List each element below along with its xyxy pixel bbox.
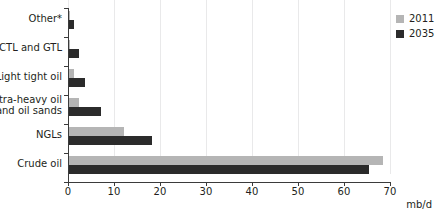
- bar-2035: [69, 49, 79, 58]
- category-label: Crude oil: [0, 158, 62, 169]
- x-tick-label: 30: [200, 186, 213, 197]
- bar-2035: [69, 136, 152, 145]
- bar-2011: [69, 69, 74, 78]
- gridline-60: [344, 0, 345, 174]
- gridline-30: [206, 0, 207, 174]
- bar-2011: [69, 11, 70, 20]
- gridline-70: [390, 0, 391, 174]
- y-tick: [64, 153, 68, 154]
- legend-item-2011[interactable]: 2011: [396, 11, 434, 26]
- gridline-50: [298, 0, 299, 174]
- bar-2011: [69, 98, 79, 107]
- category-label: Extra-heavy oil and oil sands: [0, 94, 62, 116]
- legend-item-2035[interactable]: 2035: [396, 26, 434, 41]
- legend-swatch-icon: [396, 30, 404, 38]
- y-tick: [64, 8, 68, 9]
- legend: 2011 2035: [396, 11, 434, 41]
- bar-2035: [69, 78, 85, 87]
- bar-2011: [69, 127, 124, 136]
- category-label: Light tight oil: [0, 71, 62, 82]
- x-tick-label: 20: [154, 186, 167, 197]
- x-tick-label: 70: [384, 186, 397, 197]
- y-tick: [64, 66, 68, 67]
- legend-swatch-icon: [396, 15, 404, 23]
- bar-2011: [69, 40, 70, 49]
- bar-2035: [69, 165, 369, 174]
- x-axis-title: mb/d: [406, 199, 432, 210]
- gridline-10: [114, 0, 115, 174]
- category-label: Other*: [0, 13, 62, 24]
- x-tick-label: 10: [108, 186, 121, 197]
- cropped-title-remnant: [200, 0, 440, 5]
- x-tick-label: 0: [65, 186, 71, 197]
- x-tick-label: 60: [338, 186, 351, 197]
- x-tick-label: 50: [292, 186, 305, 197]
- category-label: CTL and GTL: [0, 42, 62, 53]
- bar-chart: 0 10 20 30 40 50 60 70 mb/d Other* CTL a…: [0, 0, 440, 214]
- gridline-20: [160, 0, 161, 174]
- y-tick: [64, 95, 68, 96]
- bar-2035: [69, 20, 74, 29]
- legend-label: 2011: [409, 13, 434, 24]
- bar-2011: [69, 156, 383, 165]
- x-axis-line: [68, 182, 390, 183]
- y-tick: [64, 37, 68, 38]
- x-tick-label: 40: [246, 186, 259, 197]
- gridline-40: [252, 0, 253, 174]
- category-label: NGLs: [0, 129, 62, 140]
- legend-label: 2035: [409, 28, 434, 39]
- y-tick: [64, 124, 68, 125]
- bar-2035: [69, 107, 101, 116]
